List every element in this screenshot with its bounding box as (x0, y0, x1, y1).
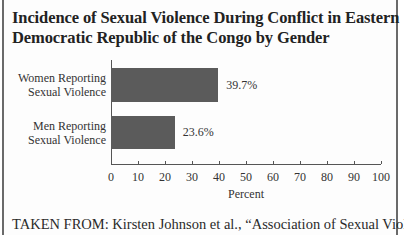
x-tick (300, 161, 301, 164)
x-tick (327, 161, 328, 164)
x-tick-label: 80 (321, 170, 333, 185)
x-tick-label: 60 (267, 170, 279, 185)
category-label-women: Women Reporting Sexual Violence (18, 71, 106, 99)
x-tick (219, 161, 220, 164)
x-tick (381, 161, 382, 164)
value-label-women: 39.7% (226, 78, 257, 93)
x-tick (273, 161, 274, 164)
x-tick-label: 0 (108, 170, 114, 185)
x-axis-line (111, 164, 381, 165)
bar-men (111, 116, 175, 149)
x-axis-title: Percent (228, 187, 264, 202)
x-tick-label: 30 (186, 170, 198, 185)
x-tick (165, 161, 166, 164)
x-tick-label: 90 (348, 170, 360, 185)
x-tick (138, 161, 139, 164)
x-tick-label: 10 (132, 170, 144, 185)
source-citation: TAKEN FROM: Kirsten Johnson et al., “Ass… (12, 216, 404, 233)
x-tick (111, 161, 112, 164)
x-tick (192, 161, 193, 164)
x-tick-label: 70 (294, 170, 306, 185)
x-tick (246, 161, 247, 164)
x-tick-label: 50 (240, 170, 252, 185)
x-tick-label: 100 (372, 170, 390, 185)
bar-women (111, 68, 218, 102)
chart-title-line-1: Incidence of Sexual Violence During Conf… (12, 8, 397, 28)
category-label-men: Men Reporting Sexual Violence (28, 119, 106, 147)
value-label-men: 23.6% (183, 125, 214, 140)
chart-title: Incidence of Sexual Violence During Conf… (12, 8, 397, 48)
x-tick-label: 20 (159, 170, 171, 185)
chart-title-line-2: Democratic Republic of the Congo by Gend… (12, 28, 397, 48)
x-tick (354, 161, 355, 164)
x-tick-label: 40 (213, 170, 225, 185)
